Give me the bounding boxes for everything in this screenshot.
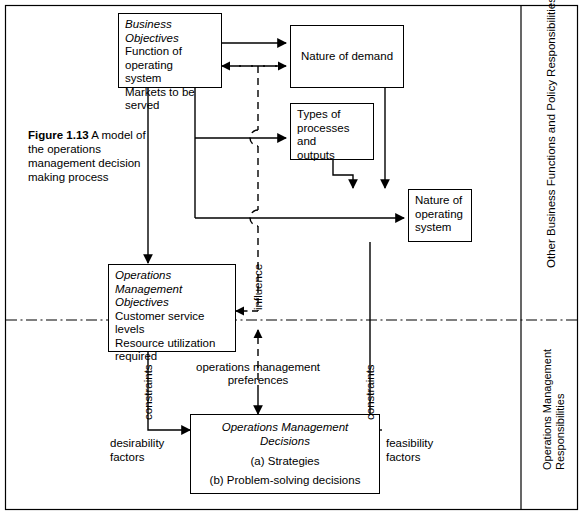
box-types-of-processes[interactable]: Types of processes and outputs xyxy=(290,103,374,160)
om-decisions-title-1: Operations Management xyxy=(197,421,373,435)
types-of-processes-line-2: processes and xyxy=(297,122,367,149)
om-objectives-line-2: Resource utilization xyxy=(115,337,229,351)
business-objectives-line-1: Function of operating xyxy=(125,45,215,72)
box-nature-of-operating-system[interactable]: Nature of operating system xyxy=(408,189,472,242)
om-objectives-title-3: Objectives xyxy=(115,296,229,310)
om-decisions-item-a: (a) Strategies xyxy=(197,455,373,469)
label-feasibility-factors-line-2: factors xyxy=(386,451,421,465)
nature-of-demand-label: Nature of demand xyxy=(301,50,393,64)
label-desirability-factors-line-2: factors xyxy=(110,451,145,465)
label-om-preferences-line-2: preferences xyxy=(178,374,338,388)
business-objectives-title: Business Objectives xyxy=(125,18,215,45)
label-feasibility-factors-line-1: feasibility xyxy=(386,437,433,451)
business-objectives-line-3: Markets to be served xyxy=(125,86,215,113)
types-of-processes-line-3: outputs xyxy=(297,149,367,163)
nature-of-operating-system-line-1: Nature of xyxy=(415,194,465,208)
label-om-preferences-line-1: operations management xyxy=(178,361,338,375)
om-decisions-title-2: Decisions xyxy=(197,435,373,449)
figure-caption: Figure 1.13 A model of the operations ma… xyxy=(28,128,148,184)
label-zone-om-responsibilities-line-1: Operations Management xyxy=(541,349,554,470)
figure-canvas: demand ===== --> xyxy=(0,0,583,515)
types-of-processes-line-1: Types of xyxy=(297,108,367,122)
box-business-objectives[interactable]: Business Objectives Function of operatin… xyxy=(118,13,222,88)
nature-of-operating-system-line-2: operating xyxy=(415,208,465,222)
om-objectives-line-1: Customer service levels xyxy=(115,310,229,337)
label-zone-om-responsibilities-line-2: Responsibilities xyxy=(554,394,567,470)
om-objectives-title-1: Operations xyxy=(115,269,229,283)
label-constraints-left: constraints xyxy=(142,364,156,420)
label-influence: influence xyxy=(252,264,266,310)
box-nature-of-demand[interactable]: Nature of demand xyxy=(290,25,404,88)
nature-of-operating-system-line-3: system xyxy=(415,221,465,235)
box-om-decisions[interactable]: Operations Management Decisions (a) Stra… xyxy=(190,414,380,494)
om-decisions-item-b: (b) Problem-solving decisions xyxy=(197,474,373,488)
label-desirability-factors-line-1: desirability xyxy=(110,437,164,451)
om-objectives-title-2: Management xyxy=(115,283,229,297)
figure-number: Figure 1.13 xyxy=(28,129,89,141)
label-constraints-right: constraints xyxy=(364,364,378,420)
label-zone-other-business-functions: Other Business Functions and Policy Resp… xyxy=(545,0,559,268)
business-objectives-line-2: system xyxy=(125,72,215,86)
box-om-objectives[interactable]: Operations Management Objectives Custome… xyxy=(108,264,236,352)
